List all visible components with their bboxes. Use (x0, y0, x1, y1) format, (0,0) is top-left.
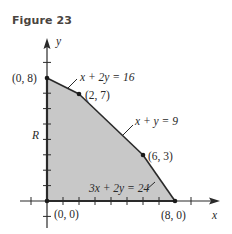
axis-x-label: x (211, 209, 218, 221)
region-label: R (31, 129, 39, 141)
vertex-label-2-7: (2, 7) (85, 89, 110, 102)
vertex-label-8-0: (8, 0) (161, 209, 186, 222)
vertex-label-0-0: (0, 0) (54, 208, 79, 221)
equation-label-x-plus-2y-16: x + 2y = 16 (79, 71, 135, 84)
vertex-6-3 (141, 153, 146, 158)
vertex-8-0 (173, 199, 178, 204)
vertex-label-0-8: (0, 8) (12, 72, 37, 85)
vertex-0-0 (45, 199, 50, 204)
leader-line-x-plus-2y (68, 79, 77, 88)
leader-line-x-plus-y (123, 125, 133, 135)
equation-label-3x-plus-2y-24: 3x + 2y = 24 (88, 182, 149, 195)
feasible-region-diagram: y x R (0, 8) (2, 7) (6, 3) (0, 0) (8, 0)… (0, 0, 232, 234)
equation-label-x-plus-y-9: x + y = 9 (134, 115, 178, 128)
vertex-2-7 (77, 92, 82, 97)
axis-y-label: y (55, 35, 62, 48)
vertex-label-6-3: (6, 3) (148, 150, 173, 163)
vertex-0-8 (45, 76, 50, 81)
